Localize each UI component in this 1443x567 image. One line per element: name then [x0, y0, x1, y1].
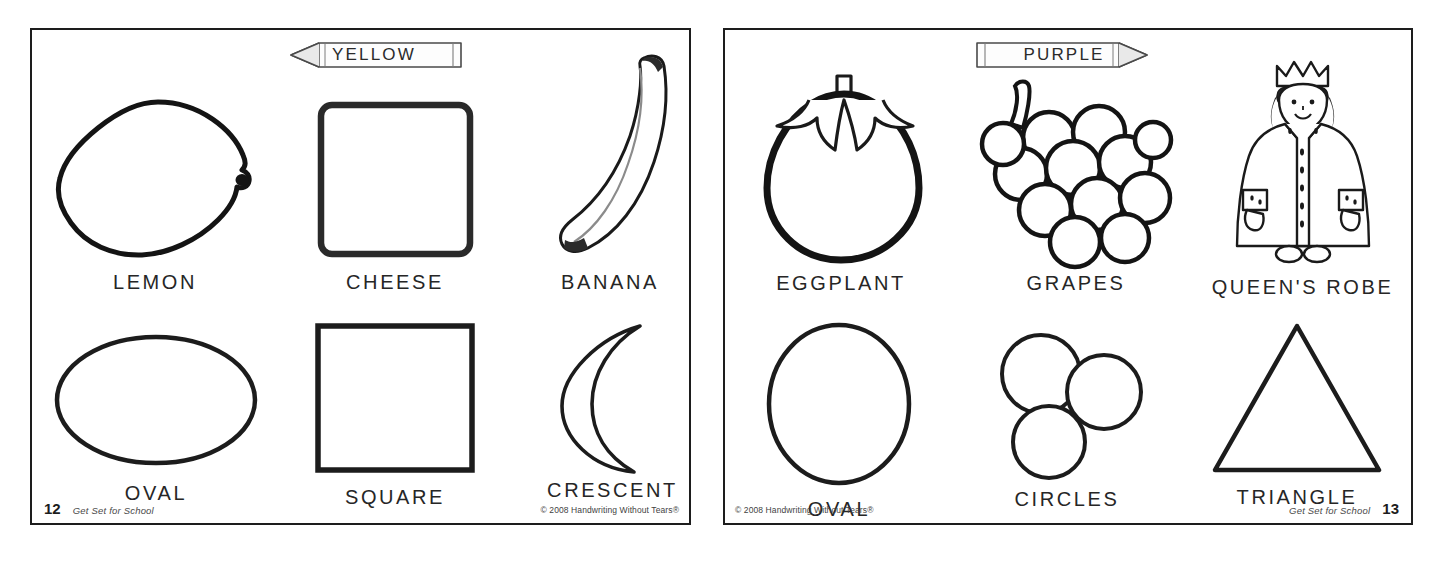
- copyright-right: © 2008 Handwriting Without Tears®: [735, 505, 874, 515]
- oval-horizontal-shape: [51, 330, 261, 470]
- item-lemon: LEMON: [40, 92, 270, 294]
- queens-robe-drawing: [1223, 52, 1383, 274]
- right-page: PURPLE EGGPLANT: [723, 28, 1413, 525]
- item-crescent: CRESCENT: [520, 322, 705, 502]
- caption-cheese: CHEESE: [280, 271, 510, 294]
- right-page-footer: Get Set for School 13: [1289, 500, 1399, 517]
- item-eggplant: EGGPLANT: [731, 70, 951, 295]
- brand-right: Get Set for School: [1289, 505, 1370, 516]
- item-oval-right: OVAL: [729, 320, 949, 521]
- caption-crescent: CRESCENT: [520, 479, 705, 502]
- item-cheese: CHEESE: [280, 92, 510, 294]
- left-page-footer: 12 Get Set for School: [44, 500, 154, 517]
- item-banana: BANANA: [510, 52, 710, 294]
- caption-grapes: GRAPES: [961, 272, 1191, 295]
- eggplant-drawing: [751, 70, 931, 270]
- caption-circles: CIRCLES: [957, 488, 1177, 511]
- oval-vertical-shape: [759, 320, 919, 488]
- item-circles: CIRCLES: [957, 330, 1177, 511]
- item-triangle: TRIANGLE: [1187, 318, 1407, 509]
- caption-queens-robe: QUEEN'S ROBE: [1195, 276, 1410, 299]
- lemon-drawing: [50, 92, 260, 267]
- left-page: YELLOW LEMON CHEESE BANA: [30, 28, 691, 525]
- purple-crayon-banner: PURPLE: [975, 40, 1153, 70]
- crayon-label-yellow: YELLOW: [285, 45, 463, 65]
- caption-lemon: LEMON: [40, 271, 270, 294]
- triangle-shape: [1207, 318, 1387, 480]
- grapes-drawing: [979, 70, 1174, 270]
- item-queens-robe: QUEEN'S ROBE: [1195, 52, 1410, 299]
- page-number-right: 13: [1382, 500, 1399, 517]
- workbook-spread: YELLOW LEMON CHEESE BANA: [0, 0, 1443, 567]
- item-oval-left: OVAL: [36, 330, 276, 505]
- caption-eggplant: EGGPLANT: [731, 272, 951, 295]
- copyright-left: © 2008 Handwriting Without Tears®: [540, 505, 679, 515]
- page-number-left: 12: [44, 500, 61, 517]
- crescent-shape: [548, 322, 678, 477]
- square-shape: [310, 318, 480, 478]
- crayon-label-purple: PURPLE: [975, 45, 1153, 65]
- caption-banana: BANANA: [510, 271, 710, 294]
- item-square: SQUARE: [280, 318, 510, 509]
- item-grapes: GRAPES: [961, 70, 1191, 295]
- yellow-crayon-banner: YELLOW: [285, 40, 463, 70]
- caption-square: SQUARE: [280, 486, 510, 509]
- three-circles-shape: [987, 330, 1147, 480]
- cheese-drawing: [308, 92, 483, 267]
- brand-left: Get Set for School: [73, 505, 154, 516]
- banana-drawing: [540, 52, 680, 267]
